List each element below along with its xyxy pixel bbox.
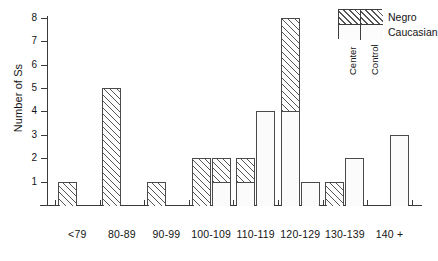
y-tick-7: [41, 41, 47, 42]
legend-label-caucasian: Caucasian: [388, 26, 438, 38]
y-tick-8: [41, 18, 47, 19]
x-tick-0: [55, 200, 56, 206]
y-tick-4: [41, 111, 47, 112]
legend-swatch-control-negro: [361, 10, 383, 25]
bar-control-3-caucasian-segment: [213, 183, 230, 206]
y-tick-6: [41, 65, 47, 66]
bar-control-6-caucasian-segment: [346, 159, 363, 206]
bar-center-0-negro-segment: [59, 183, 76, 206]
y-tick-2: [41, 158, 47, 159]
x-tick-1: [100, 200, 101, 206]
bar-center-2: [147, 182, 166, 205]
y-tick-label-2: 2: [22, 153, 37, 163]
bar-control-5: [301, 182, 320, 205]
bar-center-5: [281, 18, 300, 205]
x-tick-5: [278, 200, 279, 206]
legend: Negro Caucasian Center Control: [338, 9, 430, 79]
y-axis-title: Number of Ss: [12, 38, 24, 158]
bar-center-0: [58, 182, 77, 205]
bar-control-4: [256, 111, 275, 205]
bar-center-1-negro-segment: [103, 89, 120, 206]
bar-center-5-caucasian-segment: [282, 112, 299, 206]
legend-label-control: Control: [369, 44, 380, 75]
y-tick-label-7: 7: [22, 36, 37, 46]
bar-control-3: [212, 158, 231, 205]
bar-center-1: [102, 88, 121, 205]
bar-control-7: [390, 135, 409, 205]
legend-label-center: Center: [347, 46, 358, 75]
bar-center-2-negro-segment: [148, 183, 165, 206]
x-tick-2: [144, 200, 145, 206]
x-tick-4: [233, 200, 234, 206]
bar-control-3-negro-segment: [213, 159, 230, 182]
x-axis-line: [40, 205, 422, 206]
bar-center-3-negro-segment: [193, 159, 210, 206]
bar-control-5-caucasian-segment: [302, 183, 319, 206]
bar-control-4-caucasian-segment: [257, 112, 274, 206]
legend-swatch-control-caucasian: [361, 25, 383, 40]
x-tick-7: [367, 200, 368, 206]
y-tick-label-6: 6: [22, 60, 37, 70]
legend-swatch-center-caucasian: [339, 25, 361, 40]
y-tick-label-1: 1: [22, 177, 37, 187]
y-tick-label-3: 3: [22, 130, 37, 140]
bar-center-6-negro-segment: [326, 183, 343, 206]
legend-label-negro: Negro: [388, 11, 417, 23]
y-tick-1: [41, 182, 47, 183]
bar-center-3: [192, 158, 211, 205]
x-tick-6: [323, 200, 324, 206]
y-axis-line: [47, 16, 48, 206]
bar-center-6: [325, 182, 344, 205]
legend-swatch-center-negro: [339, 10, 361, 25]
bar-control-7-caucasian-segment: [391, 136, 408, 206]
y-tick-3: [41, 135, 47, 136]
bar-center-4-negro-segment: [237, 159, 254, 182]
bar-center-4: [236, 158, 255, 205]
y-tick-label-8: 8: [22, 13, 37, 23]
bar-center-4-caucasian-segment: [237, 183, 254, 206]
x-tick-label-7: 140 +: [357, 228, 422, 240]
y-tick-5: [41, 88, 47, 89]
y-tick-label-4: 4: [22, 106, 37, 116]
legend-swatch-grid: [338, 9, 382, 39]
x-tick-3: [189, 200, 190, 206]
bar-control-6: [345, 158, 364, 205]
bar-center-5-negro-segment: [282, 19, 299, 113]
x-tick-end: [412, 200, 413, 206]
y-tick-label-5: 5: [22, 83, 37, 93]
